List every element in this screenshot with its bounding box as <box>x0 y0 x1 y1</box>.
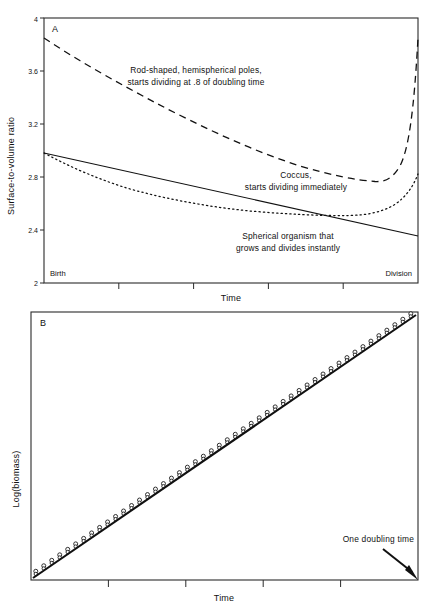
panel-a-x-axis-title: Time <box>221 293 241 303</box>
panel-a-label-birth: Birth <box>50 269 66 278</box>
panel-b-doubling-time-arrow <box>383 549 418 580</box>
panel-a-label-coccus-line1: Coccus, <box>280 170 311 180</box>
panel-a-y-tick-1: 2.4 <box>28 227 38 234</box>
panel-a-y-tick-4: 3.6 <box>28 68 38 75</box>
panel-b-annotation-label: One doubling time <box>343 534 415 544</box>
panel-a-y-tick-5: 4 <box>34 16 38 23</box>
panel-b-letter: B <box>40 318 46 328</box>
panel-a-label-sphere-line1: Spherical organism that <box>242 231 334 241</box>
panel-a-curve-rod <box>44 38 418 182</box>
panel-b: Log(biomass) B One doubling time <box>0 304 428 608</box>
panel-a-curve-coccus <box>44 153 418 216</box>
panel-a-y-tick-3: 3.2 <box>28 121 38 128</box>
panel-a-label-coccus-line2: starts dividing immediately <box>245 182 348 192</box>
panel-b-x-ticks <box>108 580 340 587</box>
figure-container: Surface-to-volume ratio 2 2.4 2.8 3.2 3.… <box>0 0 428 608</box>
panel-a-label-sphere-line2: grows and divides instantly <box>236 243 341 253</box>
panel-a-y-axis-title: Surface-to-volume ratio <box>6 117 16 215</box>
panel-a-y-ticks <box>40 18 44 283</box>
panel-a-x-ticks <box>119 283 343 289</box>
panel-a-label-rod-line1: Rod-shaped, hemispherical poles, <box>130 65 261 75</box>
panel-a-label-rod-line2: starts dividing at .8 of doubling time <box>128 77 265 87</box>
panel-a-chart: Surface-to-volume ratio 2 2.4 2.8 3.2 3.… <box>0 0 428 304</box>
panel-b-x-axis-title: Time <box>214 593 234 603</box>
panel-b-y-axis-title: Log(biomass) <box>11 451 21 508</box>
panel-a-letter: A <box>52 24 58 34</box>
panel-a-label-division: Division <box>385 269 412 278</box>
panel-b-chart: Log(biomass) B One doubling time <box>0 304 428 608</box>
panel-a-y-tick-0: 2 <box>34 280 38 287</box>
panel-a-curve-sphere <box>44 153 418 236</box>
panel-a-y-tick-2: 2.8 <box>28 174 38 181</box>
panel-a-plot-frame <box>44 18 418 283</box>
panel-a: Surface-to-volume ratio 2 2.4 2.8 3.2 3.… <box>0 0 428 304</box>
